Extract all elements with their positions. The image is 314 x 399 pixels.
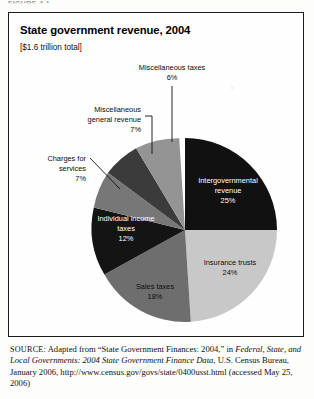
pie-chart-container: Intergovernmental revenue 25% Insurance … <box>8 12 304 337</box>
source-citation: SOURCE: Adapted from “State Government F… <box>10 344 306 390</box>
source-kicker: SOURCE: <box>10 345 46 354</box>
source-text-part-1: Adapted from “State Government Finances:… <box>46 344 235 354</box>
pie-chart-svg: Intergovernmental revenue 25% Insurance … <box>8 12 304 337</box>
label-percent: 24% <box>223 268 238 277</box>
label-line-1: Insurance trusts <box>204 258 257 267</box>
label-line-2: taxes <box>117 224 135 233</box>
label-line-1: Individual income <box>97 214 154 223</box>
label-percent: 6% <box>167 73 178 82</box>
label-line-2: general revenue <box>88 115 141 124</box>
label-line-1: Miscellaneous <box>94 105 141 114</box>
label-percent: 18% <box>148 292 163 301</box>
label-percent: 25% <box>221 196 236 205</box>
label-percent: 7% <box>75 174 86 183</box>
figure-number-label: FIGURE 4.1 <box>8 0 50 7</box>
label-line-1: Sales taxes <box>136 282 175 291</box>
label-percent: 7% <box>130 125 141 134</box>
callout-miscellaneous-taxes: Miscellaneous taxes 6% <box>139 63 206 142</box>
label-line-1: Charges for <box>47 154 86 163</box>
label-line-2: services <box>59 164 86 173</box>
label-line-1: Intergovernmental <box>198 176 258 185</box>
label-percent: 12% <box>119 234 134 243</box>
label-line-1: Miscellaneous taxes <box>139 63 206 72</box>
label-line-2: revenue <box>215 186 242 195</box>
